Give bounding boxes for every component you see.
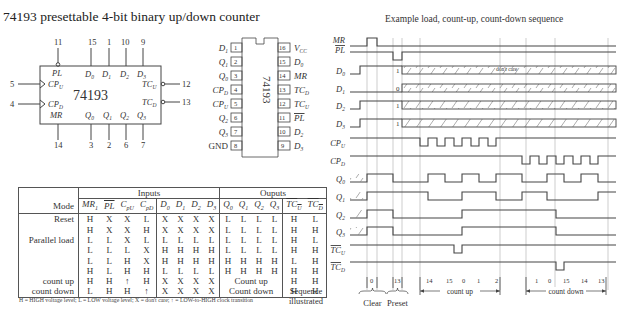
signal-label-pl: PL [334, 45, 345, 55]
input-cell: L [101, 245, 118, 255]
input-cell: X [188, 214, 204, 225]
sequence-value: 15 [563, 277, 570, 284]
sequence-value: 13 [598, 277, 605, 284]
col-d3: D3 [204, 199, 220, 214]
input-cell: X [204, 214, 220, 225]
sequence-value: 2 [495, 277, 498, 284]
dip-label-cpd: CPD [213, 85, 229, 96]
waveform-cpu [350, 138, 616, 146]
output-cell: L [251, 225, 267, 235]
input-cell: H [137, 225, 157, 235]
terminal-count-cell: H [283, 235, 305, 245]
input-cell: L [101, 256, 118, 266]
terminal-count-cell: H [283, 276, 305, 286]
mode-cell: count down [19, 286, 79, 297]
input-cell: L [79, 286, 102, 297]
input-cell: X [101, 225, 118, 235]
dip-label-tcd: TCD [294, 85, 309, 96]
pin-number: 4 [10, 99, 15, 109]
pin-number: 3 [89, 140, 93, 150]
col-cpu: CpU [118, 199, 137, 214]
output-cell: L [220, 214, 236, 225]
input-cell: X [173, 214, 189, 225]
output-cell: H [236, 266, 252, 276]
output-cell: H [220, 256, 236, 266]
input-cell: X [157, 214, 173, 225]
dip-label-d1: D1 [218, 43, 229, 54]
sequence-value: 1 [477, 277, 480, 284]
col-q3: Q3 [267, 199, 283, 214]
inputs-group-header: Inputs [79, 188, 220, 199]
output-cell: H [251, 256, 267, 266]
input-cell: X [173, 225, 189, 235]
dip-label-pl: PL [293, 113, 305, 123]
brace-label-preset: Preset [387, 298, 408, 308]
input-cell: H [188, 245, 204, 255]
load-value: 0 [396, 85, 400, 93]
input-cell: L [101, 266, 118, 276]
dip-label-q2: Q2 [219, 113, 229, 124]
waveform-q2 [350, 210, 616, 218]
unknown-state-region [350, 192, 367, 200]
input-cell: X [118, 225, 137, 235]
input-cell: ↑ [137, 286, 157, 297]
dip-label-gnd: GND [209, 141, 229, 151]
dip-label-d0: D0 [293, 57, 304, 68]
mode-cell: Parallel load [19, 235, 79, 245]
load-value: 1 [396, 67, 400, 75]
dip-pin-number: 2 [234, 58, 237, 65]
col-q0: Q0 [220, 199, 236, 214]
arrowhead [602, 289, 606, 293]
input-cell: X [137, 245, 157, 255]
waveform-tcu [350, 245, 616, 253]
table-row: LLLXHHHHLLLLHH [19, 245, 327, 255]
signal-label-q1: Q1 [336, 192, 345, 203]
pin-number: 7 [141, 140, 145, 150]
unknown-state-region [350, 210, 367, 218]
mode-cell [19, 225, 79, 235]
dip-chip-name: 74193 [261, 76, 273, 104]
pin-number: 6 [124, 140, 128, 150]
input-cell: X [157, 276, 173, 286]
sequence-illustrated-label: Sequence illustrated [283, 286, 329, 306]
dip-label-q3: Q3 [219, 127, 229, 138]
input-cell: H [137, 276, 157, 286]
input-cell: X [137, 256, 157, 266]
dont-care-region [402, 101, 616, 109]
output-cell: L [251, 214, 267, 225]
timing-diagram: MRPLD0D1D2D3CPUCPDQ0Q1Q2Q3TCUTCD 1011don… [318, 28, 629, 323]
input-cell: L [137, 214, 157, 225]
col-d2: D2 [188, 199, 204, 214]
input-cell: X [188, 286, 204, 297]
input-cell: X [101, 214, 118, 225]
sequence-value: 1 [535, 277, 538, 284]
pin-number: 2 [107, 140, 111, 150]
output-cell: L [220, 225, 236, 235]
dip-pin-number: 13 [279, 86, 286, 93]
col-pl: PL [101, 199, 118, 214]
waveform-d0 [350, 66, 402, 74]
input-cell: X [188, 276, 204, 286]
chip-name: 74193 [73, 88, 108, 103]
output-span-cell: Count down [220, 286, 283, 297]
table-row: count downLHH↑XXXXCount downHH [19, 286, 327, 297]
input-cell: L [118, 245, 137, 255]
dip-label-q1: Q1 [219, 57, 229, 68]
dip-label-d3: D3 [293, 141, 304, 152]
pin-number: 14 [54, 140, 63, 150]
dip-pin-number: 10 [279, 128, 286, 135]
dip-pin-number: 12 [279, 100, 286, 107]
brace-clear [359, 288, 386, 294]
output-cell: H [267, 266, 283, 276]
pin-label-tcd: TCD [142, 97, 156, 108]
dont-care-label: don't care [496, 66, 518, 72]
pin-number: 11 [54, 37, 62, 47]
waveform-pl [350, 52, 616, 60]
dip-pin-number: 4 [234, 86, 238, 93]
input-cell: H [118, 286, 137, 297]
signal-labels: MRPLD0D1D2D3CPUCPDQ0Q1Q2Q3TCUTCD [330, 35, 346, 273]
mode-cell [19, 256, 79, 266]
brace-label-clear: Clear [363, 298, 382, 308]
dip-label-cpu: CPU [213, 99, 230, 110]
col-tcu: TCU [283, 199, 305, 214]
